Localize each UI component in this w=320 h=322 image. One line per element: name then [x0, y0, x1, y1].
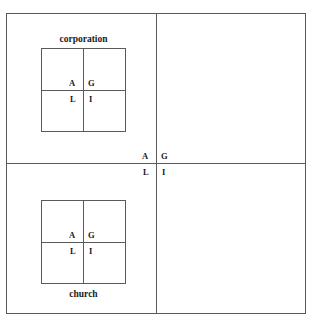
outer-quadrant-label-a: A — [142, 152, 148, 161]
outer-quadrant-label-i: I — [162, 168, 166, 177]
subsystem-church: A G L I church — [41, 200, 126, 284]
subsystem-horizontal-divider-church — [41, 242, 126, 243]
subsystem-corporation-quadrant-label-g: G — [88, 79, 95, 88]
subsystem-caption-church: church — [41, 290, 126, 300]
subsystem-corporation: corporation A G L I — [41, 48, 126, 132]
outer-horizontal-divider — [6, 163, 306, 164]
outer-quadrant-label-g: G — [161, 152, 168, 161]
agil-diagram-figure: A G L I corporation A G L I A G L I chur… — [0, 0, 320, 322]
subsystem-church-quadrant-label-g: G — [88, 231, 95, 240]
subsystem-church-quadrant-label-a: A — [69, 231, 75, 240]
subsystem-corporation-quadrant-label-a: A — [69, 79, 75, 88]
subsystem-corporation-quadrant-label-l: L — [70, 95, 76, 104]
subsystem-church-quadrant-label-i: I — [89, 247, 93, 256]
subsystem-caption-corporation: corporation — [41, 35, 126, 45]
subsystem-church-quadrant-label-l: L — [70, 247, 76, 256]
subsystem-horizontal-divider-corporation — [41, 90, 126, 91]
subsystem-corporation-quadrant-label-i: I — [89, 95, 93, 104]
outer-quadrant-label-l: L — [143, 168, 149, 177]
